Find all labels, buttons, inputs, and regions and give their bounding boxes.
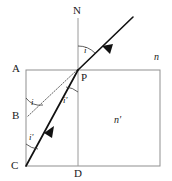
label-index-outside: n — [154, 52, 159, 62]
incident-ray — [78, 17, 133, 70]
label-point-p: P — [81, 72, 87, 83]
label-point-a: A — [12, 63, 20, 74]
refraction-diagram: N A B C D P n n′ i i′ i i′ — [0, 0, 172, 181]
medium-rectangle — [26, 70, 160, 166]
label-angle-at-b: i — [31, 98, 34, 107]
angle-arc-at-b — [26, 98, 43, 105]
label-point-d: D — [74, 168, 82, 179]
label-angle-at-c: i′ — [29, 133, 33, 142]
refracted-ray-arrowhead — [44, 126, 54, 138]
label-point-c: C — [11, 160, 18, 171]
label-index-inside: n′ — [114, 115, 121, 125]
construction-line-pb — [27, 70, 77, 117]
refracted-ray — [26, 70, 78, 166]
label-normal-n: N — [73, 5, 81, 16]
label-point-b: B — [12, 110, 19, 121]
label-angle-incidence-at-p: i — [84, 46, 87, 55]
label-angle-refraction-at-p: i′ — [63, 96, 67, 105]
diagram-canvas — [0, 0, 172, 181]
